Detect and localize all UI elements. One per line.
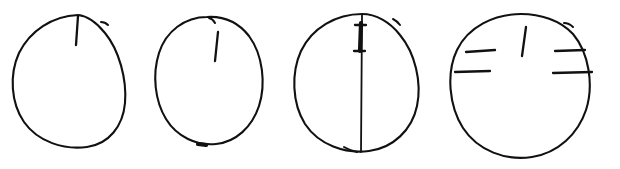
figure-1-rim-overshoot-upper-right-icon <box>101 22 108 25</box>
figure-4-left-tick-lower <box>455 71 490 72</box>
figure-4-outline <box>450 14 589 158</box>
figure-4-left-tick-upper <box>466 50 495 52</box>
figure-4-top-tick <box>522 27 526 56</box>
figure-1-outline <box>13 15 126 148</box>
figure-4-oval-with-four-hour-ticks <box>450 14 592 158</box>
figure-3-outline <box>294 14 418 152</box>
figure-4-right-tick-lower <box>553 72 592 73</box>
figure-3-oval-with-full-vertical-diameter <box>294 14 418 152</box>
figure-1-oval-with-single-top-tick <box>13 15 126 148</box>
figure-2-outline <box>155 17 262 144</box>
figure-2-rim-notch-bottom-icon <box>198 144 206 145</box>
drawing-canvas <box>0 0 620 169</box>
figure-2-rim-notch-top-icon <box>209 18 215 23</box>
hand-drawn-figure-group <box>0 0 620 169</box>
figure-2-top-tick <box>215 32 218 61</box>
figure-4-right-tick-upper <box>555 50 585 51</box>
figure-2-oval-with-detached-top-tick <box>155 17 262 145</box>
figure-3-rim-overshoot-upper-right-icon <box>393 19 400 25</box>
figure-3-bold-upper-segment <box>360 23 361 51</box>
figure-1-top-tick <box>76 16 78 45</box>
